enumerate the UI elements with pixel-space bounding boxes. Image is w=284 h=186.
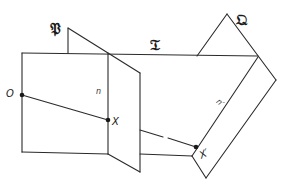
- label-point-x: X: [111, 116, 120, 127]
- projection-diagram: 𝔓 𝔗 𝔔 n n′ O X X′: [0, 0, 284, 186]
- label-line-n-prime: n′: [214, 97, 225, 108]
- point-x-prime: [194, 145, 199, 150]
- label-plane-p: 𝔓: [50, 20, 61, 38]
- ray-x-xprime: [140, 130, 196, 147]
- bottom-edge: [140, 154, 192, 156]
- point-x: [106, 118, 111, 123]
- plane-p: [68, 28, 140, 172]
- label-point-o: O: [6, 88, 14, 99]
- label-plane-q: 𝔔: [235, 11, 248, 29]
- label-plane-t: 𝔗: [150, 36, 161, 54]
- label-line-n: n: [96, 87, 101, 96]
- ray-o-x: [22, 95, 108, 120]
- point-o: [20, 93, 25, 98]
- label-point-x-prime: X′: [196, 146, 210, 161]
